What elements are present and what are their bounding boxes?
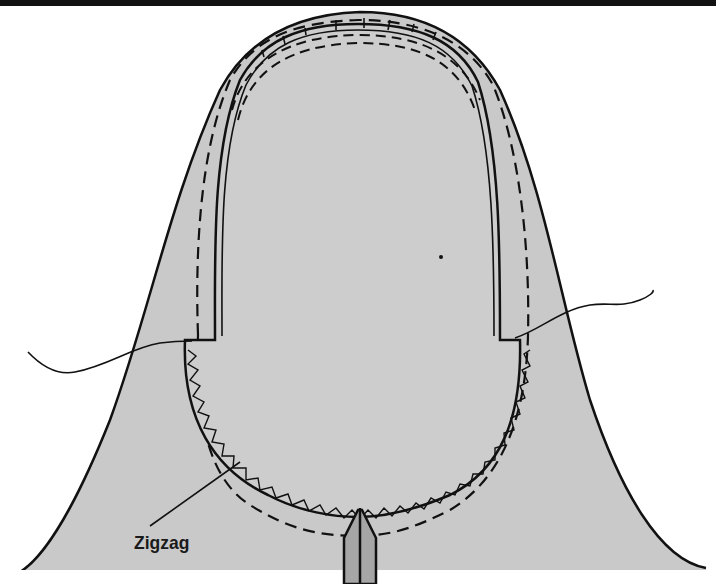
facing-illustration [0,0,716,584]
diagram-canvas: Zigzag [0,0,716,584]
neck-opening [185,24,520,517]
zigzag-label: Zigzag [134,532,189,554]
center-dot-mark [439,255,443,259]
